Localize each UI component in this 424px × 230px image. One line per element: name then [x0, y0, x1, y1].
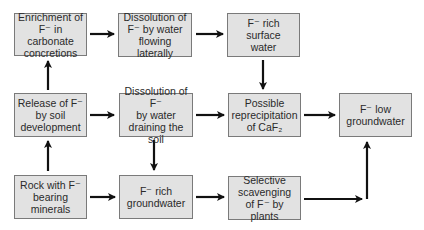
node-label: F⁻ rich surface water [230, 17, 297, 53]
node-label: Selective scavenging of F⁻ by plants [231, 174, 298, 222]
node-rich-groundwater: F⁻ rich groundwater [119, 175, 193, 219]
node-dissolution-lateral: Dissolution of F⁻ by water flowing later… [118, 13, 192, 57]
node-label: Enrichment of F⁻ in carbonate concretion… [17, 11, 84, 59]
node-label: F⁻ low groundwater [346, 103, 404, 127]
node-label: Release of F⁻ by soil development [18, 97, 84, 133]
node-reprecipitation: Possible reprecipitation of CaF₂ [228, 93, 301, 137]
node-label: F⁻ rich groundwater [127, 185, 185, 209]
node-label: Rock with F⁻ bearing minerals [20, 179, 81, 215]
node-scavenging: Selective scavenging of F⁻ by plants [228, 176, 301, 220]
node-rock: Rock with F⁻ bearing minerals [14, 175, 87, 219]
node-enrichment: Enrichment of F⁻ in carbonate concretion… [14, 13, 87, 56]
node-surface-water: F⁻ rich surface water [227, 13, 300, 57]
node-label: Dissolution of F⁻ by water draining the … [122, 85, 190, 145]
node-label: Dissolution of F⁻ by water flowing later… [121, 11, 189, 59]
node-label: Possible reprecipitation of CaF₂ [232, 97, 298, 133]
node-dissolution-draining: Dissolution of F⁻ by water draining the … [119, 93, 193, 137]
node-low-groundwater: F⁻ low groundwater [339, 93, 412, 137]
node-release: Release of F⁻ by soil development [14, 93, 87, 137]
